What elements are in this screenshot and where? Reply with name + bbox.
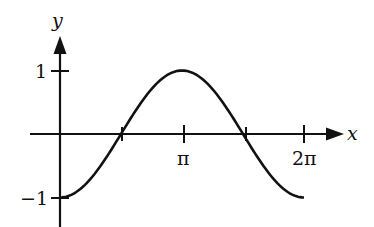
x-tick-label-pi: π: [177, 147, 190, 169]
x-axis-label: x: [347, 122, 358, 144]
graph: y x 1 −1 π 2π: [0, 0, 374, 227]
y-axis-arrow-icon: [54, 36, 67, 54]
y-tick-label-1: 1: [35, 60, 47, 82]
x-tick-label-two-pi: 2π: [292, 147, 317, 169]
y-axis-label: y: [51, 9, 63, 31]
x-axis-arrow-icon: [326, 128, 344, 141]
y-tick-label-neg1: −1: [20, 187, 48, 209]
